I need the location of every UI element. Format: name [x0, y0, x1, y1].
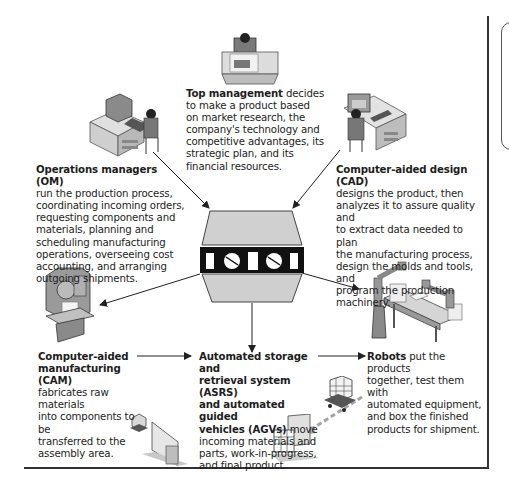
node-title: Computer-aided	[38, 351, 128, 362]
node-title: Automated storage and	[199, 351, 308, 374]
node-title: Top management	[186, 88, 283, 99]
node-title: Operations managers (OM)	[36, 164, 157, 187]
node-robots: Robots put the products together, test t…	[367, 351, 487, 436]
node-top-management: Top management decides to make a product…	[186, 88, 336, 173]
central-computer-icon	[198, 209, 306, 305]
node-title: Computer-aided design (CAD)	[336, 164, 467, 187]
node-operations-managers: Operations managers (OM) run the product…	[36, 164, 186, 285]
storage-rack-icon	[142, 420, 192, 468]
node-cam: Computer-aided manufacturing (CAM) fabri…	[38, 351, 148, 460]
computer-workstation-icon	[88, 92, 166, 158]
design-workstation-icon	[340, 92, 410, 154]
node-cad: Computer-aided design (CAD) designs the …	[336, 164, 486, 309]
node-asrs: Automated storage and retrieval system (…	[199, 351, 324, 472]
node-title: Robots	[367, 351, 406, 362]
executive-desk-icon	[220, 30, 282, 86]
agv-vehicle-icon	[322, 376, 358, 412]
